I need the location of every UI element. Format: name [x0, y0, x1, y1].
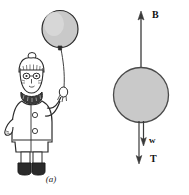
left-arm-mitten — [5, 119, 13, 135]
balloon-knot — [58, 46, 62, 50]
right-leg — [33, 152, 42, 164]
panel-b-illustration — [95, 0, 189, 195]
figure-container: (a) (b) B w T — [0, 0, 189, 195]
left-leg — [21, 152, 30, 164]
panel-a-caption: (a) — [40, 174, 62, 184]
left-boot — [18, 163, 31, 175]
panel-a-girl-with-balloon: (a) — [0, 0, 95, 195]
panel-a-illustration — [0, 0, 95, 195]
left-pupil — [25, 75, 27, 77]
coat — [12, 101, 52, 152]
right-pupil — [35, 75, 37, 77]
panel-b-free-body-diagram: (b) — [95, 0, 189, 195]
tension-label: T — [150, 153, 157, 164]
balloon-highlight — [44, 12, 64, 36]
coat-button-top — [32, 112, 37, 117]
weight-label: w — [149, 135, 156, 145]
coat-button-bottom — [32, 128, 37, 133]
balloon-sphere — [114, 68, 169, 123]
balloon-string — [61, 49, 64, 88]
hand-grip — [59, 87, 67, 97]
buoyant-force-label: B — [152, 9, 159, 20]
